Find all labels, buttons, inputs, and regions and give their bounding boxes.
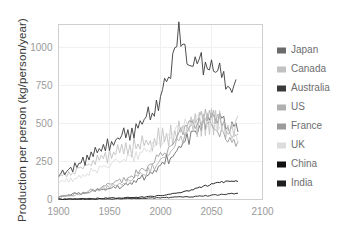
legend-swatch-france [277, 124, 286, 130]
chart-legend: JapanCanadaAustraliaUSFranceUKChinaIndia [277, 44, 330, 188]
legend-label-canada: Canada [291, 63, 326, 74]
x-tick-label: 2000 [149, 206, 172, 217]
legend-label-china: China [291, 158, 318, 169]
legend-swatch-canada [277, 67, 286, 73]
legend-label-india: India [291, 177, 313, 188]
y-tick-label: 1000 [30, 42, 53, 53]
x-axis-ticks: 19001950200020502100 [47, 206, 274, 217]
y-axis-ticks: 02505007501000 [30, 42, 53, 205]
legend-label-us: US [291, 101, 305, 112]
legend-label-uk: UK [291, 139, 305, 150]
x-tick-label: 2100 [251, 206, 274, 217]
x-tick-label: 1900 [47, 206, 70, 217]
grid-lines [59, 25, 263, 200]
y-tick-label: 250 [36, 156, 53, 167]
legend-label-japan: Japan [291, 44, 318, 55]
legend-swatch-india [277, 181, 286, 187]
legend-swatch-us [277, 105, 286, 111]
y-tick-label: 750 [36, 80, 53, 91]
y-tick-label: 500 [36, 118, 53, 129]
legend-swatch-australia [277, 86, 286, 92]
chart-figure: Production per person (kg/person/year) 1… [0, 0, 340, 235]
legend-label-australia: Australia [291, 82, 330, 93]
series-line-australia [59, 22, 236, 176]
x-tick-label: 1950 [98, 206, 121, 217]
line-chart-plot: 19001950200020502100 02505007501000 Japa… [0, 0, 340, 235]
legend-swatch-uk [277, 143, 286, 149]
x-tick-label: 2050 [200, 206, 223, 217]
legend-label-france: France [291, 120, 323, 131]
legend-swatch-china [277, 162, 286, 168]
legend-swatch-japan [277, 48, 286, 54]
y-tick-label: 0 [47, 194, 53, 205]
